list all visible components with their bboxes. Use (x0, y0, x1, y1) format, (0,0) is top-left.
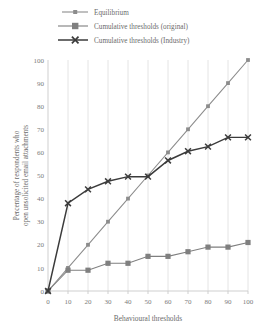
data-point-marker (65, 268, 70, 273)
data-point-marker (226, 81, 230, 85)
y-tick-label-1: 10 (37, 265, 45, 273)
x-tick-label-10: 100 (243, 298, 254, 306)
data-point-marker (185, 249, 190, 254)
data-point-marker (246, 58, 250, 62)
y-tick-label-5: 50 (37, 172, 45, 180)
y-tick-label-2: 20 (37, 241, 45, 249)
x-tick-label-9: 90 (225, 298, 233, 306)
chart-figure: EquilibriumCumulative thresholds (origin… (0, 0, 266, 326)
data-point-marker (205, 245, 210, 250)
y-tick-label-9: 90 (37, 80, 45, 88)
y-axis-title-line1: Percentage of respondents who (13, 130, 21, 220)
line-chart-canvas: EquilibriumCumulative thresholds (origin… (0, 0, 266, 326)
legend-marker-square-1 (73, 10, 77, 14)
data-point-marker (125, 261, 130, 266)
legend-label-3: Cumulative thresholds (Industry) (94, 37, 190, 45)
y-tick-label-8: 80 (37, 103, 45, 111)
x-tick-label-6: 60 (165, 298, 173, 306)
x-tick-label-0: 0 (46, 298, 50, 306)
x-axis-title: Behavioural thresholds (114, 314, 182, 323)
x-tick-label-1: 10 (65, 298, 73, 306)
y-tick-label-7: 70 (37, 126, 45, 134)
data-point-marker (206, 104, 210, 108)
data-point-marker (105, 261, 110, 266)
y-tick-label-10: 100 (34, 57, 45, 65)
data-point-marker (106, 220, 110, 224)
legend-marker-square-large-2 (72, 23, 78, 29)
x-tick-label-3: 30 (105, 298, 113, 306)
x-tick-label-8: 80 (205, 298, 213, 306)
data-point-marker (245, 240, 250, 245)
y-tick-label-3: 30 (37, 218, 45, 226)
legend-label-2: Cumulative thresholds (original) (94, 23, 188, 31)
data-point-marker (165, 254, 170, 259)
data-point-marker (166, 151, 170, 155)
x-tick-label-5: 50 (145, 298, 153, 306)
data-point-marker (85, 268, 90, 273)
legend-label-1: Equilibrium (94, 9, 129, 17)
data-point-marker (126, 197, 130, 201)
y-tick-label-4: 40 (37, 195, 45, 203)
y-axis-title-line2: open unsolicited email attachments (22, 125, 30, 226)
x-tick-label-7: 70 (185, 298, 193, 306)
data-point-marker (186, 127, 190, 131)
data-point-marker (86, 243, 90, 247)
data-point-marker (145, 254, 150, 259)
x-tick-label-4: 40 (125, 298, 133, 306)
y-tick-label-0: 0 (41, 288, 45, 296)
data-point-marker (225, 245, 230, 250)
y-tick-label-6: 60 (37, 149, 45, 157)
x-tick-label-2: 20 (85, 298, 93, 306)
